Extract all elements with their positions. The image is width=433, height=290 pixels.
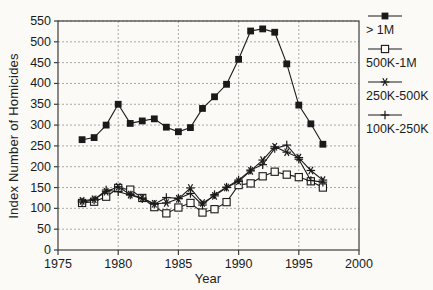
legend-entry: 500K-1M [366, 43, 432, 70]
x-tick-label: 1980 [104, 257, 132, 271]
data-point-marker [270, 144, 279, 153]
y-tick-label: 350 [30, 97, 51, 111]
axes-ticks [54, 21, 359, 255]
x-tick-label: 1990 [225, 257, 253, 271]
legend-label: 500K-1M [366, 56, 432, 70]
legend-entry: > 1M [366, 10, 432, 37]
plus-icon [366, 109, 406, 121]
x-tick-label: 1995 [285, 257, 313, 271]
data-point-marker [259, 26, 266, 33]
data-point-marker [259, 173, 266, 180]
x-tick-label: 2000 [345, 257, 373, 271]
y-tick-label: 250 [30, 139, 51, 153]
data-point-marker [319, 141, 326, 148]
gridlines [58, 21, 359, 250]
y-tick-label: 500 [30, 35, 51, 49]
series-500k-1m [78, 168, 326, 217]
data-point-marker [382, 13, 389, 20]
y-tick-label: 450 [30, 56, 51, 70]
data-point-marker [162, 193, 171, 202]
y-tick-label: 400 [30, 76, 51, 90]
data-point-marker [295, 102, 302, 109]
y-tick-label: 150 [30, 181, 51, 195]
series-1m [79, 26, 327, 148]
open-square-icon [366, 43, 406, 55]
data-point-marker [151, 115, 158, 122]
y-tick-label: 200 [30, 160, 51, 174]
x-tick-label: 1985 [164, 257, 192, 271]
data-point-marker [139, 118, 146, 125]
asterisk-icon [366, 76, 406, 88]
data-point-marker [163, 124, 170, 131]
data-point-marker [175, 204, 182, 211]
x-axis-title: Year [195, 271, 221, 286]
data-point-marker [91, 134, 98, 141]
data-point-marker [283, 171, 290, 178]
data-point-marker [381, 45, 388, 52]
data-point-marker [295, 174, 302, 181]
plot-frame [58, 21, 359, 250]
y-tick-label: 0 [44, 243, 51, 257]
legend-label: > 1M [366, 23, 432, 37]
data-point-marker [211, 93, 218, 100]
data-point-marker [271, 168, 278, 175]
data-point-marker [79, 136, 86, 143]
y-tick-label: 100 [30, 201, 51, 215]
y-tick-label: 300 [30, 118, 51, 132]
filled-square-icon [366, 10, 406, 22]
data-point-marker [199, 105, 206, 112]
data-point-marker [247, 28, 254, 35]
legend-label: 250K-500K [366, 89, 432, 103]
data-point-marker [271, 29, 278, 36]
data-point-marker [115, 101, 122, 108]
data-point-marker [103, 122, 110, 129]
data-point-marker [223, 81, 230, 88]
legend: > 1M500K-1M250K-500K100K-250K [366, 10, 432, 138]
data-point-marker [163, 210, 170, 217]
data-point-marker [381, 78, 390, 85]
data-point-marker [235, 56, 242, 63]
data-point-marker [175, 128, 182, 135]
data-point-marker [307, 120, 314, 127]
legend-entry: 250K-500K [366, 76, 432, 103]
data-point-marker [282, 148, 291, 155]
x-tick-label: 1975 [44, 257, 72, 271]
legend-entry: 100K-250K [366, 109, 432, 136]
homicide-index-figure: Index Number of Homicides 05010015020025… [0, 0, 433, 290]
y-tick-label: 550 [30, 14, 51, 28]
data-point-marker [247, 180, 254, 187]
data-point-marker [258, 160, 267, 169]
data-point-marker [283, 60, 290, 67]
data-point-marker [187, 199, 194, 206]
data-point-marker [127, 120, 134, 127]
legend-label: 100K-250K [366, 122, 432, 136]
y-tick-label: 50 [37, 222, 51, 236]
data-point-marker [223, 199, 230, 206]
data-point-marker [199, 209, 206, 216]
data-point-marker [187, 124, 194, 131]
data-point-marker [381, 111, 390, 120]
data-point-marker [211, 206, 218, 213]
